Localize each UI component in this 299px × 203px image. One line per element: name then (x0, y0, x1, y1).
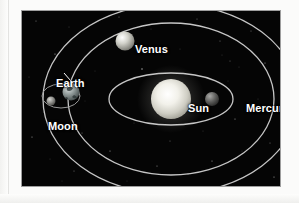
label-sun: Sun (188, 103, 209, 114)
margin-rule-line (8, 0, 9, 203)
solar-system-figure: Sun Mercury Venus Earth Moon (21, 10, 281, 187)
planet-venus (116, 32, 135, 51)
planet-moon (47, 97, 56, 106)
label-venus: Venus (135, 44, 168, 55)
planet-sun (151, 79, 191, 119)
label-mercury: Mercury (246, 103, 281, 114)
label-earth: Earth (56, 78, 85, 89)
page-background: Sun Mercury Venus Earth Moon (0, 0, 299, 203)
label-moon: Moon (48, 121, 78, 132)
paper-left-shading (0, 0, 8, 203)
paper-bottom-shading (0, 194, 299, 203)
orbit-scene (22, 11, 280, 186)
